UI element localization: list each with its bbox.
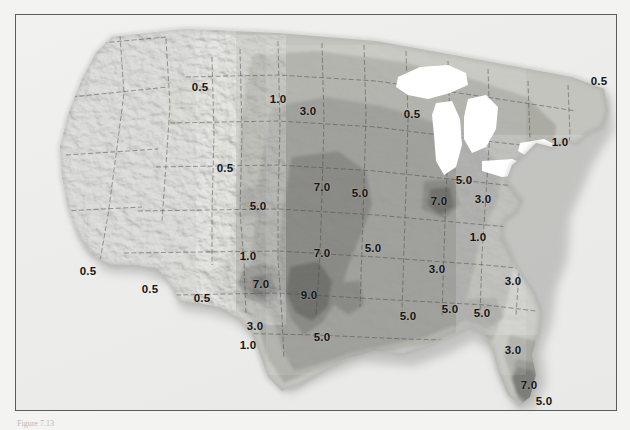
map-plate[interactable]: 0.51.03.00.51.00.50.55.07.05.05.07.03.01… [16,15,617,411]
contour-map-graphic[interactable] [16,15,617,411]
map-land-base [16,15,617,411]
figure-frame: 0.51.03.00.51.00.50.55.07.05.05.07.03.01… [15,14,617,411]
figure-caption: Figure 7.13 [17,419,317,428]
shaded-relief-plains [266,45,526,375]
page-background: 0.51.03.00.51.00.50.55.07.05.05.07.03.01… [0,0,630,430]
